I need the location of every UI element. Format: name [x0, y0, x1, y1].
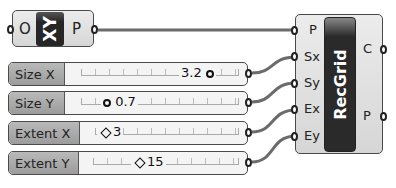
- slider-size-y[interactable]: Size Y 0.7: [8, 91, 248, 115]
- slider-grip-circle-icon[interactable]: [103, 99, 111, 107]
- recgrid-input-label-sx: Sx: [304, 49, 320, 64]
- slider-extent-y[interactable]: Extent Y 15: [8, 151, 248, 175]
- slider-name: Size X: [9, 63, 65, 85]
- recgrid-output-label-p: P: [363, 108, 371, 123]
- slider-name: Size Y: [9, 92, 65, 114]
- slider-value[interactable]: 3: [97, 124, 123, 139]
- slider-value[interactable]: 15: [131, 154, 166, 169]
- slider-output-port[interactable]: [245, 69, 252, 78]
- slider-track[interactable]: [93, 158, 239, 165]
- slider-name: Extent Y: [9, 152, 79, 174]
- xy-output-port[interactable]: [91, 25, 98, 34]
- recgrid-input-label-p: P: [309, 22, 317, 37]
- recgrid-input-port-ex[interactable]: [291, 105, 298, 114]
- slider-grip-diamond-icon[interactable]: [134, 157, 145, 168]
- recgrid-input-label-sy: Sy: [304, 75, 320, 90]
- recgrid-input-port-p[interactable]: [291, 26, 298, 35]
- recgrid-output-label-c: C: [363, 41, 372, 56]
- slider-extent-x[interactable]: Extent X 3: [8, 121, 248, 145]
- slider-grip-diamond-icon[interactable]: [100, 127, 111, 138]
- recgrid-input-label-ex: Ex: [304, 101, 320, 116]
- slider-name: Extent X: [9, 122, 80, 144]
- recgrid-component-icon: RecGrid: [324, 17, 356, 152]
- slider-output-port[interactable]: [245, 128, 252, 137]
- xy-component-icon: XY: [36, 12, 64, 46]
- slider-value[interactable]: 0.7: [101, 94, 138, 109]
- slider-output-port[interactable]: [245, 98, 252, 107]
- recgrid-input-label-ey: Ey: [304, 128, 320, 143]
- slider-size-x[interactable]: Size X 3.2: [8, 62, 248, 86]
- slider-value[interactable]: 3.2: [179, 65, 216, 80]
- recgrid-output-port-c[interactable]: [380, 45, 387, 54]
- xy-output-label: P: [72, 20, 81, 38]
- recgrid-input-port-ey[interactable]: [291, 132, 298, 141]
- slider-output-port[interactable]: [245, 158, 252, 167]
- recgrid-input-port-sy[interactable]: [291, 79, 298, 88]
- slider-grip-circle-icon[interactable]: [206, 70, 214, 78]
- xy-input-port[interactable]: [7, 25, 14, 34]
- xy-input-label: O: [19, 20, 31, 38]
- recgrid-input-port-sx[interactable]: [291, 52, 298, 61]
- recgrid-output-port-p[interactable]: [380, 112, 387, 121]
